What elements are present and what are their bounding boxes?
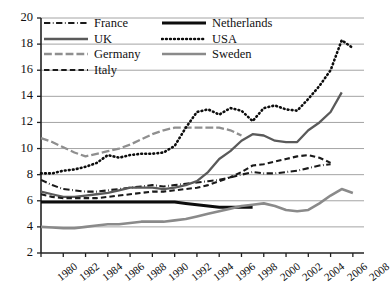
legend-swatch-icon (43, 33, 89, 45)
legend: FranceNetherlandsUKUSAGermanySwedenItaly (43, 16, 258, 78)
series-line-uk (41, 92, 342, 196)
legend-label: Italy (94, 63, 117, 77)
legend-label: UK (94, 32, 112, 46)
legend-item-germany[interactable]: Germany (43, 47, 141, 62)
legend-swatch-icon (161, 17, 207, 29)
y-tick-label: 10 (9, 141, 33, 156)
y-tick-label: 8 (9, 167, 33, 182)
series-line-france (41, 164, 331, 191)
legend-label: France (94, 16, 128, 30)
y-tick-label: 4 (9, 219, 33, 234)
y-tick-label: 12 (9, 114, 33, 129)
legend-swatch-icon (43, 64, 89, 76)
legend-swatch-icon (43, 17, 89, 29)
y-tick-label: 16 (9, 62, 33, 77)
legend-item-uk[interactable]: UK (43, 32, 112, 47)
series-line-germany (41, 128, 241, 157)
legend-swatch-icon (161, 33, 207, 45)
y-tick-label: 14 (9, 88, 33, 103)
x-tick-label: 2008 (367, 260, 391, 283)
legend-label: USA (212, 32, 237, 46)
legend-item-france[interactable]: France (43, 16, 128, 31)
legend-swatch-icon (43, 48, 89, 60)
legend-item-sweden[interactable]: Sweden (161, 47, 252, 62)
y-tick-label: 2 (9, 245, 33, 260)
legend-label: Germany (94, 47, 141, 61)
y-tick-label: 6 (9, 193, 33, 208)
y-tick-label: 20 (9, 10, 33, 25)
series-line-netherlands (41, 202, 253, 207)
legend-item-italy[interactable]: Italy (43, 63, 117, 78)
legend-item-netherlands[interactable]: Netherlands (161, 16, 272, 31)
legend-item-usa[interactable]: USA (161, 32, 237, 47)
legend-swatch-icon (161, 48, 207, 60)
y-tick-label: 18 (9, 36, 33, 51)
legend-label: Netherlands (212, 16, 272, 30)
legend-label: Sweden (212, 47, 252, 61)
